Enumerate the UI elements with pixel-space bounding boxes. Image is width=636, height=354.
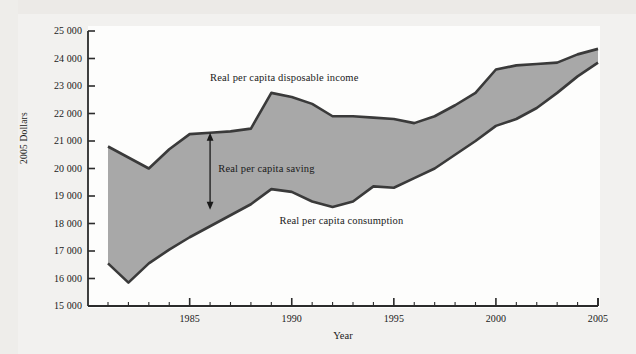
y-axis-tick-label: 25 000: [26, 25, 82, 36]
x-axis-title: Year: [313, 330, 373, 341]
x-axis-tick-label: 1990: [262, 313, 322, 324]
y-axis-tick-label: 24 000: [26, 53, 82, 64]
y-axis-ticks: [88, 31, 95, 306]
x-axis-tick-label: 1985: [160, 313, 220, 324]
x-axis-tick-label: 2000: [466, 313, 526, 324]
saving-series-label: Real per capita saving: [218, 163, 314, 174]
x-axis-tick-label: 1995: [364, 313, 424, 324]
consumption-series-label: Real per capita consumption: [280, 215, 404, 226]
y-axis-tick-label: 19 000: [26, 190, 82, 201]
figure: 2005 Dollars 15 00016 00017 00018 00019 …: [0, 0, 636, 354]
area-band: [108, 49, 598, 283]
y-axis-tick-label: 18 000: [26, 218, 82, 229]
y-axis-tick-label: 23 000: [26, 80, 82, 91]
y-axis-tick-label: 22 000: [26, 108, 82, 119]
y-axis-tick-label: 20 000: [26, 163, 82, 174]
saving-band-fill: [108, 49, 598, 283]
y-axis-tick-label: 15 000: [26, 300, 82, 311]
chart-canvas: [0, 0, 636, 354]
y-axis-tick-label: 17 000: [26, 245, 82, 256]
x-axis-ticks: [108, 298, 598, 306]
income-series-label: Real per capita disposable income: [210, 72, 358, 83]
x-axis-tick-label: 2005: [568, 313, 628, 324]
y-axis-tick-label: 16 000: [26, 273, 82, 284]
y-axis-tick-label: 21 000: [26, 135, 82, 146]
